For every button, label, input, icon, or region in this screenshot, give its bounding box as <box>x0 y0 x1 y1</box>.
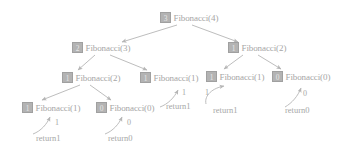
return-value-r0: 1 <box>182 88 186 97</box>
edge-n3-n8 <box>90 85 111 100</box>
node-value-box: 1 <box>206 71 217 82</box>
return-value-r4: 0 <box>127 118 131 127</box>
edge-n0-n1 <box>122 25 177 42</box>
return-label-r1: return1 <box>213 105 238 115</box>
node-call-label: Fibonacci(4) <box>174 13 219 23</box>
tree-node-n5[interactable]: 1 Fibonacci(1) <box>206 71 264 82</box>
return-value-r1: 1 <box>205 88 209 97</box>
node-call-label: Fibonacci(0) <box>110 103 155 113</box>
node-value-box: 0 <box>272 71 283 82</box>
node-value-box: 0 <box>96 102 107 113</box>
edge-n3-n7 <box>42 85 80 100</box>
tree-node-n8[interactable]: 0 Fibonacci(0) <box>96 102 154 113</box>
tree-node-n4[interactable]: 1 Fibonacci(1) <box>140 72 198 83</box>
fibonacci-recursion-tree: 3 Fibonacci(4) 2 Fibonacci(3) 1 Fibonacc… <box>0 0 346 147</box>
node-call-label: Fibonacci(3) <box>86 43 131 53</box>
node-call-label: Fibonacci(1) <box>154 73 199 83</box>
tree-node-n1[interactable]: 2 Fibonacci(3) <box>72 42 130 53</box>
tree-node-n7[interactable]: 1 Fibonacci(1) <box>22 102 80 113</box>
edge-n2-n5 <box>224 55 243 69</box>
tree-node-n2[interactable]: 1 Fibonacci(2) <box>228 42 286 53</box>
return-label-r0: return1 <box>166 101 191 111</box>
node-value-box: 1 <box>22 102 33 113</box>
return-label-r3: return1 <box>36 133 61 143</box>
return-label-r4: return0 <box>108 133 133 143</box>
node-value-box: 1 <box>228 42 239 53</box>
node-call-label: Fibonacci(2) <box>242 43 287 53</box>
return-arrow-r3 <box>33 117 50 134</box>
tree-node-n3[interactable]: 1 Fibonacci(2) <box>62 72 120 83</box>
return-label-r2: return0 <box>285 105 310 115</box>
edge-n0-n2 <box>192 25 238 42</box>
node-call-label: Fibonacci(1) <box>220 72 265 82</box>
tree-node-n0[interactable]: 3 Fibonacci(4) <box>160 12 218 23</box>
node-call-label: Fibonacci(2) <box>76 73 121 83</box>
node-value-box: 3 <box>160 12 171 23</box>
tree-node-n6[interactable]: 0 Fibonacci(0) <box>272 71 330 82</box>
node-value-box: 1 <box>140 72 151 83</box>
return-arrow-r4 <box>105 117 122 134</box>
node-value-box: 1 <box>62 72 73 83</box>
node-value-box: 2 <box>72 42 83 53</box>
edge-n1-n4 <box>110 55 147 70</box>
edge-n1-n3 <box>78 55 95 70</box>
node-call-label: Fibonacci(1) <box>36 103 81 113</box>
return-value-r3: 1 <box>55 118 59 127</box>
node-call-label: Fibonacci(0) <box>286 72 331 82</box>
return-value-r2: 0 <box>303 89 307 98</box>
edge-n2-n6 <box>258 55 281 69</box>
